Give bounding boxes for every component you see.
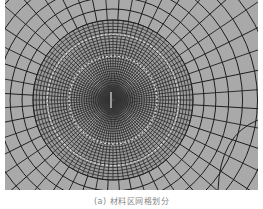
mesh-diagram	[5, 0, 258, 190]
mesh-figure	[5, 0, 258, 190]
figure-caption: (a) 材料区网格划分	[0, 195, 263, 206]
